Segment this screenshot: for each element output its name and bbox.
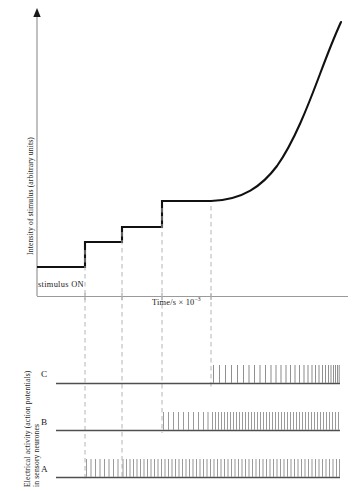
figure-canvas xyxy=(0,0,356,491)
trace-label-a: A xyxy=(41,464,48,474)
y-axis-label-top-panel: Intensity of stimulus (arbitrary units) xyxy=(26,137,35,255)
stimulus-on-annotation: stimulus ON xyxy=(38,280,84,289)
y-axis-label-bottom-panel-line1: Electrical activity (action potentials) xyxy=(23,370,32,487)
y-axis-label-bottom-panel-line2: in sensory neurones xyxy=(32,424,41,487)
trace-label-c: C xyxy=(41,369,47,379)
trace-label-b: B xyxy=(41,417,47,427)
x-axis-label-time: Time/s × 10−3 xyxy=(152,296,201,307)
x-axis-label-time-prefix: Time/s × 10 xyxy=(152,298,194,307)
x-axis-label-time-exponent: −3 xyxy=(194,296,200,302)
